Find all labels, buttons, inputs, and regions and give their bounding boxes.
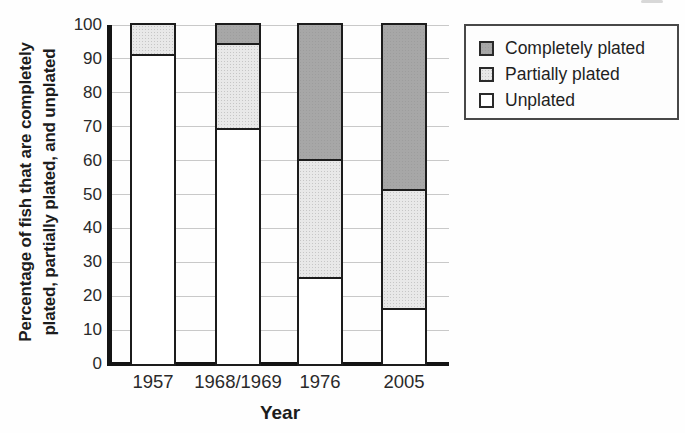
- legend-label: Completely plated: [505, 38, 645, 59]
- y-axis-title-line1: Percentage of fish that are completely: [14, 15, 38, 370]
- legend-row: Unplated: [479, 87, 677, 113]
- x-tick-label-2005: 2005: [339, 371, 469, 393]
- y-axis-line: [107, 25, 112, 366]
- bar-segment-unplated: [132, 56, 174, 364]
- y-axis-title: Percentage of fish that are completely p…: [14, 15, 62, 370]
- bar-segment-partially-plated: [217, 45, 259, 130]
- bar-segment-completely-plated: [217, 25, 259, 45]
- y-tick-label-10: 10: [58, 320, 102, 340]
- x-axis-title: Year: [215, 402, 345, 424]
- y-tick-label-30: 30: [58, 252, 102, 272]
- stacked-bar-chart: Percentage of fish that are completely p…: [0, 0, 685, 433]
- y-tick-label-100: 100: [58, 15, 102, 35]
- bar-1957: [130, 23, 176, 366]
- legend-label: Partially plated: [505, 64, 620, 85]
- y-tick-label-60: 60: [58, 151, 102, 171]
- legend-swatch-completely-plated: [479, 41, 494, 56]
- bar-1976: [297, 23, 343, 366]
- legend-row: Completely plated: [479, 35, 677, 61]
- y-tick-label-90: 90: [58, 49, 102, 69]
- bar-segment-unplated: [383, 310, 425, 364]
- y-tick-label-80: 80: [58, 83, 102, 103]
- bar-segment-completely-plated: [383, 25, 425, 191]
- bar-segment-partially-plated: [132, 25, 174, 56]
- bar-2005: [381, 23, 427, 366]
- legend: Completely platedPartially platedUnplate…: [464, 24, 679, 120]
- legend-label: Unplated: [505, 90, 575, 111]
- bar-1968-1969: [215, 23, 261, 366]
- y-tick-label-40: 40: [58, 218, 102, 238]
- bar-segment-unplated: [299, 279, 341, 364]
- bar-segment-completely-plated: [299, 25, 341, 161]
- bar-segment-partially-plated: [299, 161, 341, 280]
- bar-segment-unplated: [217, 130, 259, 364]
- legend-swatch-unplated: [479, 93, 494, 108]
- legend-swatch-partially-plated: [479, 67, 494, 82]
- scan-smudge: [641, 0, 663, 3]
- legend-row: Partially plated: [479, 61, 677, 87]
- y-tick-label-50: 50: [58, 185, 102, 205]
- y-tick-label-70: 70: [58, 117, 102, 137]
- bar-segment-partially-plated: [383, 191, 425, 310]
- y-tick-label-20: 20: [58, 286, 102, 306]
